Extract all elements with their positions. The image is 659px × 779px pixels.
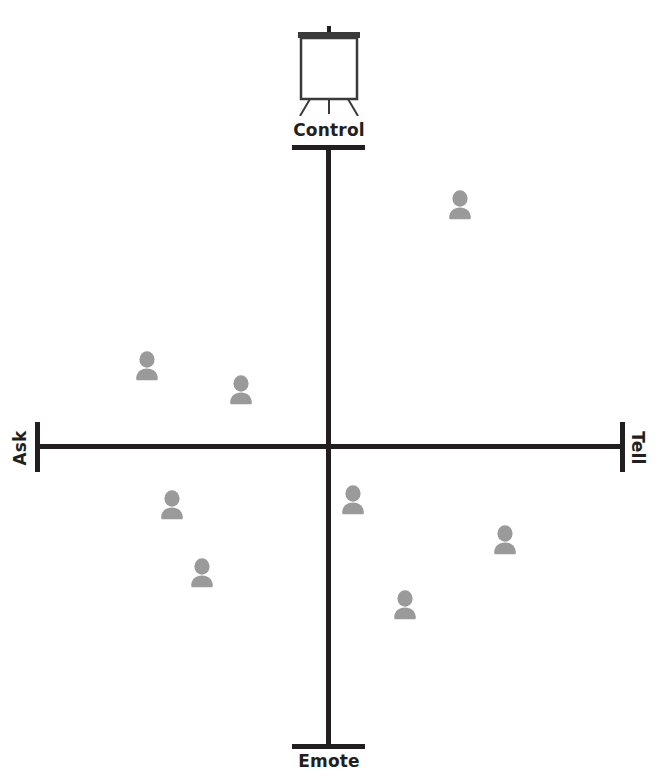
axis-label-emote: Emote bbox=[229, 751, 429, 771]
person-bust-icon bbox=[187, 557, 217, 589]
axis-label-ask: Ask bbox=[0, 426, 42, 470]
person-bust-icon bbox=[390, 589, 420, 621]
axis-label-control: Control bbox=[229, 120, 429, 140]
person-bust-icon bbox=[157, 489, 187, 521]
person-bust-icon bbox=[490, 524, 520, 556]
person-bust-icon bbox=[445, 189, 475, 221]
axis-cap-emote bbox=[292, 744, 365, 749]
horizontal-axis bbox=[37, 444, 623, 449]
flipchart-easel-icon bbox=[293, 26, 365, 116]
person-bust-icon bbox=[226, 374, 256, 406]
axis-label-tell: Tell bbox=[616, 426, 659, 470]
axis-cap-control bbox=[292, 145, 365, 150]
person-bust-icon bbox=[132, 350, 162, 382]
quadrant-diagram: Control Emote Ask Tell bbox=[0, 0, 659, 779]
person-bust-icon bbox=[338, 484, 368, 516]
